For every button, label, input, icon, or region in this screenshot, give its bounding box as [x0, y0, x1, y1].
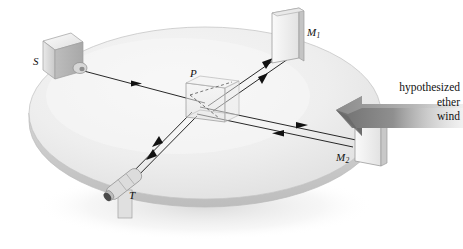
label-mirror-2: M2	[336, 152, 349, 164]
label-mirror-1-base: M	[307, 26, 316, 38]
beam-splitter-slab	[186, 76, 239, 122]
light-source-box	[43, 33, 87, 79]
interferometer-diagram	[0, 0, 463, 249]
label-ether-wind: hypothesized ether wind	[376, 80, 460, 124]
mirror-1-plate	[272, 8, 304, 63]
ether-wind-line-1: hypothesized	[376, 80, 460, 95]
ether-wind-line-2: ether	[376, 95, 460, 110]
label-source: S	[33, 56, 39, 67]
label-mirror-2-base: M	[336, 151, 345, 163]
label-mirror-2-sub: 2	[345, 156, 349, 165]
label-mirror-1: M1	[307, 27, 320, 39]
ether-wind-line-3: wind	[376, 109, 460, 124]
figure-canvas: S P M1 M2 T hypothesized ether wind	[0, 0, 463, 249]
label-telescope: T	[129, 190, 135, 201]
label-mirror-1-sub: 1	[316, 31, 320, 40]
label-beamsplitter: P	[190, 68, 197, 79]
